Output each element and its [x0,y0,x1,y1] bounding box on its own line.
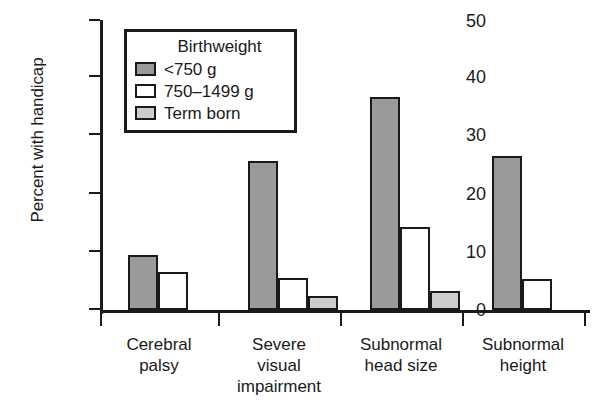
y-tick-20 [89,192,100,194]
y-axis-title: Percent with handicap [28,10,48,270]
legend-item-term-born: Term born [135,102,286,124]
x-category-label-cerebral-palsy: Cerebral palsy [100,334,218,376]
bar-subnormal-head-size-term-born [430,291,460,310]
y-tick-label-30: 30 [442,126,486,144]
y-axis-line [100,20,103,314]
bar-severe-visual-impairment-less750 [248,161,278,310]
y-tick-label-40: 40 [442,68,486,86]
x-tick-boundary-2 [340,313,342,326]
x-category-line: Subnormal [462,334,584,355]
y-tick-10 [89,250,100,252]
legend-item-label: Term born [164,104,241,123]
x-category-label-subnormal-head-size: Subnormal head size [340,334,462,376]
bar-chart: Percent with handicap 0 10 20 30 40 50 [0,0,596,416]
legend-swatch-icon [135,106,156,120]
bar-subnormal-height-less750 [492,156,522,310]
x-tick-boundary-4 [584,313,586,326]
bar-subnormal-head-size-750-1499 [400,227,430,310]
x-category-line: impairment [218,376,340,397]
x-category-line: palsy [100,355,218,376]
x-category-label-subnormal-height: Subnormal height [462,334,584,376]
y-tick-0 [89,308,100,310]
y-tick-50 [89,19,100,21]
x-category-label-severe-visual-impairment: Severe visual impairment [218,334,340,397]
y-tick-label-20: 20 [442,185,486,203]
x-category-line: visual [218,355,340,376]
bar-severe-visual-impairment-750-1499 [278,278,308,310]
x-tick-boundary-3 [462,313,464,326]
legend-swatch-icon [135,84,156,98]
x-category-line: Cerebral [100,334,218,355]
legend-swatch-icon [135,62,156,76]
y-tick-30 [89,133,100,135]
x-category-line: Subnormal [340,334,462,355]
x-category-line: height [462,355,584,376]
legend: Birthweight <750 g 750–1499 g Term born [124,29,297,133]
x-category-line: head size [340,355,462,376]
y-tick-label-10: 10 [442,243,486,261]
bar-cerebral-palsy-750-1499 [158,272,188,310]
y-tick-40 [89,75,100,77]
legend-item-label: <750 g [164,60,216,79]
x-tick-boundary-0 [100,313,102,326]
x-category-line: Severe [218,334,340,355]
bar-subnormal-head-size-less750 [370,97,400,310]
bar-subnormal-height-750-1499 [522,279,552,310]
legend-item-less750: <750 g [135,58,286,80]
x-axis-line [100,310,590,313]
legend-item-750-1499: 750–1499 g [135,80,286,102]
x-tick-boundary-1 [218,313,220,326]
legend-title: Birthweight [135,36,286,57]
legend-item-label: 750–1499 g [164,82,254,101]
bar-cerebral-palsy-less750 [128,255,158,310]
bar-severe-visual-impairment-term-born [308,296,338,310]
y-tick-label-50: 50 [442,12,486,30]
